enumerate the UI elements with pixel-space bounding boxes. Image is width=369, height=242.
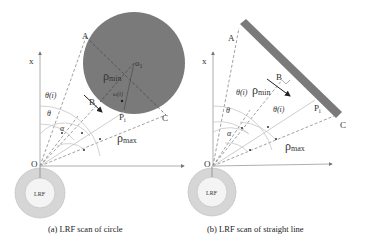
label-x-axis: x [202, 56, 207, 66]
label-x-axis: x [29, 56, 34, 66]
y-axis [213, 164, 332, 166]
label-lrf: LRF [206, 190, 218, 196]
ray-oc [40, 115, 166, 166]
panel-b: x O LRF A B C Pi ρmin ρmax θ(i) θ α θ(i)… [188, 19, 346, 234]
label-origin: O [204, 159, 211, 169]
label-alpha: α [60, 124, 65, 133]
label-point-b: B [276, 72, 282, 82]
pi-dot [121, 100, 123, 102]
label-lrf: LRF [34, 191, 46, 197]
arc-marker [275, 138, 277, 140]
label-rho-min: ρmin [252, 83, 270, 97]
ray-theta [213, 110, 250, 166]
label-rho-max: ρmax [285, 139, 305, 153]
ray-opi [40, 112, 124, 166]
ray-oa [213, 28, 239, 166]
label-point-c: C [340, 120, 346, 130]
arc-theta-i [40, 124, 74, 140]
arc-marker [267, 126, 269, 128]
caption-b: (b) LRF scan of straight line [207, 224, 304, 234]
caption-a: (a) LRF scan of circle [48, 224, 123, 234]
arc-marker [83, 149, 85, 151]
label-point-c: C [162, 113, 168, 123]
label-theta: θ [47, 109, 51, 118]
panel-a: x O LRF A B C Pi o1 ρmin ρmax θ(i) θ α ω… [15, 12, 185, 234]
label-theta: θ [226, 106, 230, 115]
label-point-pi: Pi [119, 112, 126, 123]
ray-oa [40, 37, 86, 166]
label-theta-i: θ(i) [45, 91, 57, 100]
label-rho-max: ρmax [117, 131, 137, 145]
right-angle-b [282, 80, 290, 84]
label-omega-i: ω(i) [113, 91, 123, 98]
arc-marker [99, 138, 101, 140]
label-theta-i: θ(i) [236, 88, 248, 97]
arc-marker [249, 149, 251, 151]
label-point-a: A [228, 33, 235, 43]
label-origin: O [31, 159, 38, 169]
label-point-a: A [82, 31, 89, 41]
figure-canvas: x O LRF A B C Pi o1 ρmin ρmax θ(i) θ α ω… [0, 0, 369, 242]
arc-marker [241, 127, 243, 129]
target-line [240, 19, 342, 118]
arc-theta [40, 123, 90, 136]
label-point-b: B [89, 97, 95, 107]
label-point-pi: Pi [314, 103, 321, 114]
label-theta-i-prime: θ(i) [273, 105, 285, 114]
label-alpha: α [227, 129, 232, 138]
arc-marker [81, 132, 83, 134]
